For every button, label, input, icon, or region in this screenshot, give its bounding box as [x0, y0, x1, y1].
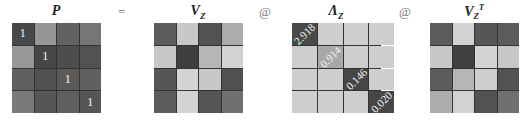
- matrix-cell: 0.020: [369, 91, 394, 113]
- matrix-cell: [369, 69, 394, 91]
- cell-value: 1: [65, 72, 71, 87]
- matrix-cell: [475, 23, 497, 45]
- matrix-cell: [498, 46, 520, 68]
- matrix-cell: [154, 46, 176, 68]
- matrix-cell: [222, 69, 244, 91]
- matrix-cell: [453, 69, 475, 91]
- matrix-cell: [344, 91, 369, 113]
- matrix-cell: [199, 46, 221, 68]
- matrix-cell: [318, 69, 343, 91]
- matrix-cell: [498, 91, 520, 113]
- matrix-cell: [154, 91, 176, 113]
- matrix-cell: 1: [80, 91, 102, 113]
- matmul-operator-1: @: [259, 4, 271, 20]
- equals-operator: =: [118, 4, 125, 20]
- matrix-cell: [453, 23, 475, 45]
- cell-value: 0.146: [343, 66, 369, 92]
- matrix-cell: [199, 69, 221, 91]
- matrix-cell: [57, 46, 79, 68]
- matrix-cell: [12, 69, 34, 91]
- matrix-cell: 0.914: [318, 46, 343, 68]
- matrix-cell: [177, 46, 199, 68]
- matrix-cell: [57, 91, 79, 113]
- matrix-cell: [177, 69, 199, 91]
- matrix-cell: [12, 91, 34, 113]
- matrix-cell: [80, 23, 102, 45]
- matrix-cell: [154, 69, 176, 91]
- matrix-cell: [430, 69, 452, 91]
- matrix-cell: [475, 91, 497, 113]
- matrix-label-p: P: [11, 3, 101, 19]
- matrix-cell: [177, 23, 199, 45]
- matrix-cell: 2.918: [292, 23, 317, 45]
- matrix-cell: [199, 91, 221, 113]
- matmul-operator-2: @: [399, 4, 411, 20]
- matrix-cell: [57, 23, 79, 45]
- matrix-cell: [12, 46, 34, 68]
- cell-value: 2.918: [291, 21, 317, 47]
- matrix-v-z: [154, 23, 243, 113]
- cell-value: 0.914: [317, 44, 343, 70]
- matrix-cell: [318, 23, 343, 45]
- matrix-label-v-z: VZ: [153, 3, 243, 21]
- matrix-cell: [498, 69, 520, 91]
- cell-value: 1: [87, 95, 93, 110]
- matrix-p: 1111: [12, 23, 101, 113]
- matrix-cell: [80, 69, 102, 91]
- matrix-cell: [35, 69, 57, 91]
- cell-value: 0.020: [369, 89, 395, 115]
- matrix-cell: [369, 23, 394, 45]
- matrix-cell: 1: [35, 46, 57, 68]
- matrix-label-lambda-z: ΛZ: [291, 3, 381, 21]
- matrix-cell: [154, 23, 176, 45]
- matrix-cell: [344, 23, 369, 45]
- matrix-cell: [344, 46, 369, 68]
- matrix-cell: 1: [57, 69, 79, 91]
- matrix-cell: [430, 23, 452, 45]
- matrix-cell: [292, 46, 317, 68]
- matrix-cell: [453, 91, 475, 113]
- matrix-cell: [222, 23, 244, 45]
- matrix-cell: [292, 69, 317, 91]
- matrix-label-v-z-transpose: VZT: [429, 3, 519, 21]
- matrix-v-z-transpose: [430, 23, 519, 113]
- matrix-cell: [475, 69, 497, 91]
- matrix-cell: 1: [12, 23, 34, 45]
- matrix-lambda-z: 2.9180.9140.1460.020: [292, 23, 381, 113]
- matrix-cell: [453, 46, 475, 68]
- cell-value: 1: [20, 26, 26, 41]
- matrix-cell: [199, 23, 221, 45]
- matrix-cell: [177, 91, 199, 113]
- matrix-cell: [475, 46, 497, 68]
- matrix-cell: [430, 46, 452, 68]
- matrix-cell: [222, 91, 244, 113]
- matrix-cell: [35, 91, 57, 113]
- matrix-cell: [318, 91, 343, 113]
- matrix-cell: [369, 46, 394, 68]
- matrix-cell: [292, 91, 317, 113]
- matrix-cell: [430, 91, 452, 113]
- matrix-cell: [222, 46, 244, 68]
- matrix-cell: [35, 23, 57, 45]
- matrix-cell: [498, 23, 520, 45]
- cell-value: 1: [42, 49, 48, 64]
- matrix-cell: 0.146: [344, 69, 369, 91]
- matrix-cell: [80, 46, 102, 68]
